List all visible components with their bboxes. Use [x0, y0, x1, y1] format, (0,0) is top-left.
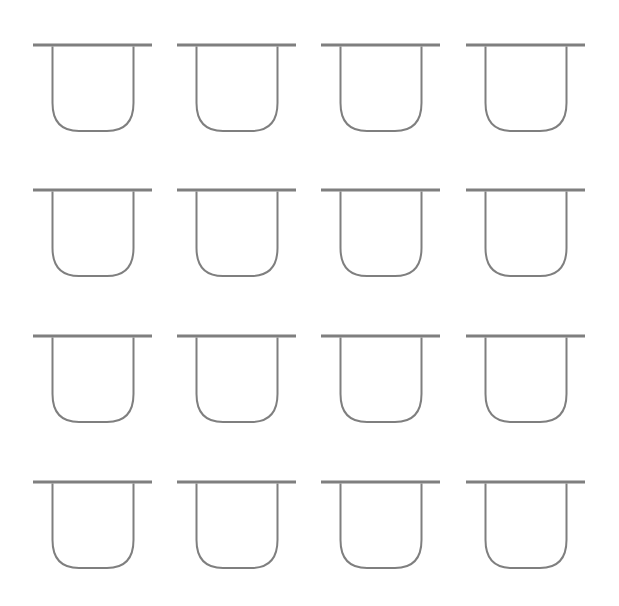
cup-shape	[33, 480, 153, 572]
cup-shape	[466, 43, 586, 135]
cup-icon	[466, 480, 586, 572]
cup-icon	[33, 480, 153, 572]
cup-shape	[177, 480, 297, 572]
cup-shape	[321, 480, 441, 572]
cup-shape	[466, 480, 586, 572]
cup-icon	[466, 43, 586, 135]
cup-icon	[177, 480, 297, 572]
cup-icon	[321, 43, 441, 135]
cup-shape	[466, 188, 586, 280]
cup-shape	[321, 43, 441, 135]
cup-shape	[321, 334, 441, 426]
cup-icon	[177, 334, 297, 426]
cup-grid	[0, 0, 619, 606]
cup-icon	[33, 43, 153, 135]
cup-shape	[177, 188, 297, 280]
cup-icon	[177, 43, 297, 135]
cup-icon	[33, 334, 153, 426]
cup-shape	[466, 334, 586, 426]
cup-icon	[466, 188, 586, 280]
cup-shape	[321, 188, 441, 280]
cup-shape	[177, 43, 297, 135]
cup-shape	[33, 334, 153, 426]
cup-shape	[33, 188, 153, 280]
cup-icon	[33, 188, 153, 280]
cup-icon	[177, 188, 297, 280]
cup-icon	[321, 480, 441, 572]
cup-icon	[466, 334, 586, 426]
cup-icon	[321, 188, 441, 280]
cup-shape	[177, 334, 297, 426]
cup-shape	[33, 43, 153, 135]
cup-icon	[321, 334, 441, 426]
